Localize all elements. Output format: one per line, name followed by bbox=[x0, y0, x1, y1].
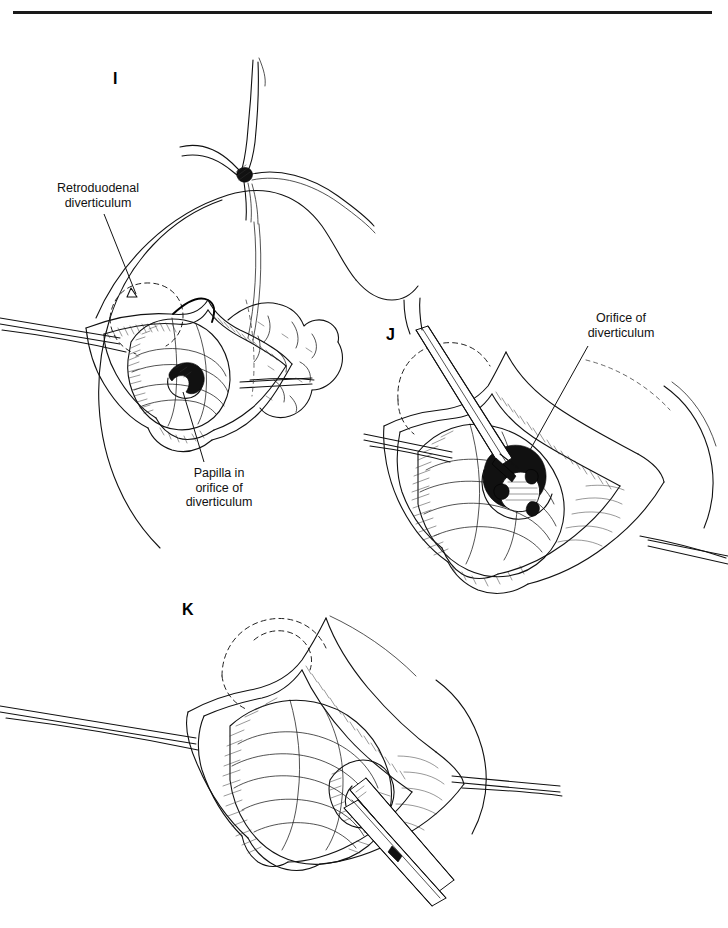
diverticulum-dashed-outline-j bbox=[398, 343, 490, 434]
label-papilla-in-orifice: Papilla in orifice of diverticulum bbox=[160, 466, 278, 510]
duodenotomy-opening-k bbox=[186, 618, 464, 870]
pancreas-tissue-i bbox=[228, 300, 343, 418]
diverticulum-bulge-j bbox=[412, 392, 624, 586]
hatching-k-left bbox=[223, 698, 277, 853]
panel-j-illustration bbox=[0, 0, 728, 928]
texture-j-right bbox=[558, 485, 624, 546]
duodenotomy-opening-j bbox=[384, 352, 664, 593]
hatching-j-left bbox=[412, 431, 453, 555]
hatching-i-right-lip bbox=[212, 314, 277, 360]
inverted-diverticulum-k bbox=[329, 760, 394, 828]
panel-letter-i: I bbox=[113, 71, 118, 87]
stay-sutures-k bbox=[0, 706, 562, 796]
label-line: orifice of bbox=[160, 481, 278, 496]
mucosa-surface-k bbox=[223, 666, 444, 864]
hatching-j-uplip bbox=[496, 392, 611, 489]
label-retroduodenal-diverticulum: Retroduodenal diverticulum bbox=[28, 181, 168, 210]
duodenotomy-opening-i bbox=[86, 299, 292, 452]
label-line: Retroduodenal bbox=[28, 181, 168, 196]
leader-lines-j bbox=[520, 346, 588, 468]
hatching-i-left bbox=[128, 326, 157, 413]
suture-threads-i bbox=[180, 58, 375, 233]
illustration-page: I J K Retroduodenal diverticulum Papilla… bbox=[0, 0, 728, 928]
label-line: diverticulum bbox=[160, 495, 278, 510]
panel-i-illustration bbox=[0, 0, 728, 928]
label-line: Papilla in bbox=[160, 466, 278, 481]
label-line: diverticulum bbox=[560, 326, 682, 341]
leader-lines-i bbox=[104, 214, 204, 462]
panel-k-illustration bbox=[0, 0, 728, 928]
bowel-arc-k bbox=[330, 616, 486, 834]
stay-sutures-j bbox=[364, 434, 728, 564]
texture-k-right bbox=[386, 756, 444, 830]
label-line: Orifice of bbox=[560, 311, 682, 326]
panel-letter-k: K bbox=[182, 602, 194, 618]
hatching-j-lower bbox=[452, 566, 524, 586]
stay-sutures-i bbox=[0, 318, 314, 388]
panel-letter-j: J bbox=[386, 327, 395, 343]
orifice-papilla-j bbox=[482, 445, 552, 519]
header-rule bbox=[13, 11, 712, 14]
diverticulum-bulge-i bbox=[106, 314, 277, 443]
probe-instrument-j bbox=[404, 298, 518, 482]
diverticulum-dashed-outline-k bbox=[222, 618, 326, 710]
papilla-orifice-i bbox=[168, 363, 205, 399]
diverticulum-dashed-outline-i bbox=[110, 283, 183, 354]
forceps-k bbox=[344, 778, 454, 906]
label-orifice-of-diverticulum: Orifice of diverticulum bbox=[560, 311, 682, 340]
hatching-k-lowright bbox=[349, 792, 390, 853]
label-line: diverticulum bbox=[28, 196, 168, 211]
bowel-arc-j bbox=[586, 360, 716, 528]
hatching-i-lower bbox=[160, 428, 204, 443]
hatching-k-upright bbox=[306, 666, 405, 779]
hatching-k-divert bbox=[330, 770, 353, 821]
hatching-i-lip bbox=[106, 323, 176, 338]
